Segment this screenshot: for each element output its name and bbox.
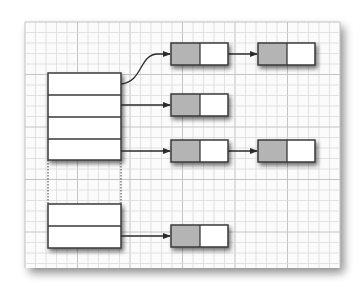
list-node (171, 225, 228, 247)
list-node (171, 94, 228, 116)
node-next-cell (200, 225, 228, 247)
diagram-canvas (0, 0, 361, 295)
node-next-cell (200, 43, 228, 65)
node-next-cell (287, 43, 315, 65)
node-next-cell (200, 140, 228, 162)
node-next-cell (200, 94, 228, 116)
list-node (171, 140, 228, 162)
node-key-cell (258, 43, 287, 65)
list-node (171, 43, 228, 65)
node-next-cell (287, 140, 315, 162)
bucket-group-top-buckets (48, 73, 121, 160)
node-key-cell (171, 225, 200, 247)
node-key-cell (171, 140, 200, 162)
node-key-cell (171, 94, 200, 116)
node-key-cell (258, 140, 287, 162)
node-key-cell (171, 43, 200, 65)
list-node (258, 140, 315, 162)
hash-table-diagram (0, 0, 361, 295)
list-node (258, 43, 315, 65)
bucket-group-bottom-buckets (48, 204, 121, 248)
bucket-array (48, 73, 121, 248)
